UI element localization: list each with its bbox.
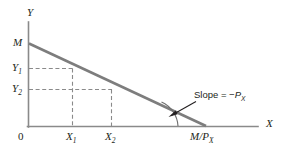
x-tick-X1-sub: 1 [73,136,77,145]
x-axis-label: X [266,118,273,129]
y-tick-Y1-sub: 1 [18,67,22,76]
slope-annotation-prefix: Slope = − [194,89,235,100]
y-tick-Y2: Y2 [12,83,22,97]
y-tick-Y1: Y1 [12,62,22,76]
y-tick-M: M [13,37,22,48]
budget-line [29,44,206,127]
x-tick-M-over-Px-text: M/P [190,130,209,142]
x-tick-X2: X2 [105,131,115,145]
x-tick-M-over-Px: M/PX [190,131,214,145]
x-tick-M-over-Px-sub: X [209,136,214,145]
origin-label: 0 [18,131,24,142]
x-tick-X1: X1 [66,131,76,145]
figure-canvas [0,0,282,159]
y-axis-label: Y [27,7,33,18]
x-tick-X2-text: X [105,130,112,142]
x-tick-X2-sub: 2 [112,136,116,145]
slope-annotation: Slope = −PX [194,90,245,103]
x-tick-X1-text: X [66,130,73,142]
y-tick-M-text: M [13,36,22,48]
y-tick-Y2-sub: 2 [18,88,22,97]
slope-annotation-subscript: X [241,95,245,102]
budget-constraint-figure: Y X 0 M Y1 Y2 X1 X2 M/PX Slope = −PX [0,0,282,159]
